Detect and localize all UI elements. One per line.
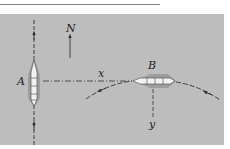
- label-y: y: [149, 119, 155, 130]
- label-north: N: [66, 23, 76, 34]
- label-ship-a: A: [17, 76, 25, 87]
- label-x: x: [98, 68, 104, 79]
- ship-b: [133, 74, 176, 88]
- diagram-graphics: [0, 0, 230, 149]
- ship-a: [28, 58, 40, 107]
- arrow-left-icon: [99, 88, 106, 91]
- label-ship-b: B: [148, 60, 156, 71]
- arrow-left-icon: [205, 92, 212, 95]
